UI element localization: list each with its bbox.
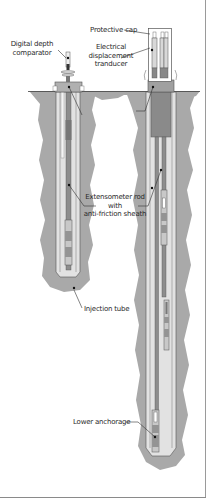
label-line: displacement: [86, 52, 136, 61]
label-electrical-displacement-transducer: Electrical displacement tranducer: [86, 43, 136, 69]
label-digital-depth-comparator: Digital depth comparator: [4, 40, 60, 57]
label-line: tranducer: [86, 60, 136, 69]
label-line: Extensometer rod: [80, 193, 150, 202]
label-protective-cap: Protective cap: [90, 26, 137, 35]
label-line: Electrical: [86, 43, 136, 52]
label-lower-anchorage: Lower anchorage: [73, 418, 130, 427]
right-upper-casing: [151, 92, 171, 137]
label-extensometer-rod: Extensometer rod with anti-friction shea…: [80, 193, 150, 219]
digital-depth-comparator: [61, 52, 75, 82]
label-injection-tube: Injection tube: [84, 305, 129, 314]
label-line: comparator: [4, 49, 60, 58]
label-line: with: [80, 202, 150, 211]
right-extensometer-rod-1: [155, 137, 159, 445]
label-line: anti-friction sheath: [80, 210, 150, 219]
label-line: Digital depth: [4, 40, 60, 49]
displacement-transducers: [152, 32, 168, 78]
extensometer-diagram: [0, 0, 214, 502]
right-grout-column: [146, 92, 176, 456]
left-anchor: [65, 220, 72, 265]
